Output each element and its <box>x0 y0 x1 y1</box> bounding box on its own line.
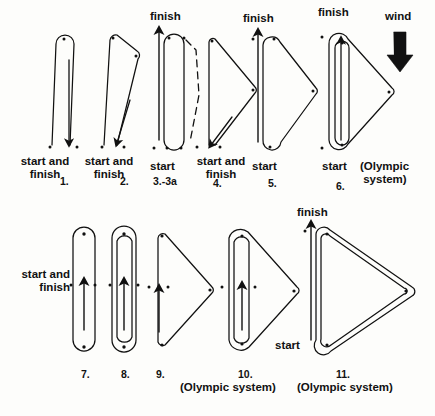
label-start-and-finish-2: start andfinish <box>78 155 140 180</box>
course-3-path <box>153 30 200 150</box>
label-olympic-system-11: (Olympic system) <box>297 381 393 394</box>
course-number-6: 6. <box>336 180 345 192</box>
label-olympic-system-6: (Olympic system) <box>360 160 432 185</box>
course-number-3: 3.-3a <box>153 175 177 187</box>
sailing-course-diagrams <box>0 0 435 416</box>
label-finish-6: finish <box>318 6 349 19</box>
label-finish-5: finish <box>243 12 274 25</box>
course-4-path <box>196 38 257 148</box>
course-2-path <box>101 35 140 149</box>
course-number-8: 8. <box>121 368 130 380</box>
label-start-11: start <box>275 339 300 352</box>
course-number-11: 11. <box>336 368 350 380</box>
course-number-7: 7. <box>81 368 90 380</box>
course-5-path <box>252 32 318 150</box>
label-start-and-finish-7-8: start andfinish <box>0 268 70 293</box>
label-olympic-system-10: (Olympic system) <box>180 381 276 394</box>
label-wind: wind <box>385 10 411 23</box>
label-start-5: start <box>252 160 277 173</box>
wind-arrow-icon <box>387 32 413 72</box>
course-11-path <box>304 224 415 355</box>
course-number-2: 2. <box>120 175 129 187</box>
label-finish-11: finish <box>297 206 328 219</box>
label-start-6: start <box>322 160 347 173</box>
label-start-3: start <box>150 160 175 173</box>
course-6-path <box>321 33 395 149</box>
course-7-path <box>70 227 97 351</box>
course-10-path <box>221 229 300 350</box>
course-1-path <box>49 35 79 149</box>
course-number-4: 4. <box>213 177 222 189</box>
diagram-sheet: start andfinish start andfinish start fi… <box>0 0 435 416</box>
label-finish-3: finish <box>150 10 181 23</box>
course-number-1: 1. <box>60 175 69 187</box>
course-number-5: 5. <box>268 177 277 189</box>
course-9-path <box>148 234 214 347</box>
course-number-9: 9. <box>156 368 165 380</box>
course-number-10: 10. <box>238 368 253 380</box>
course-8-path <box>109 226 140 352</box>
